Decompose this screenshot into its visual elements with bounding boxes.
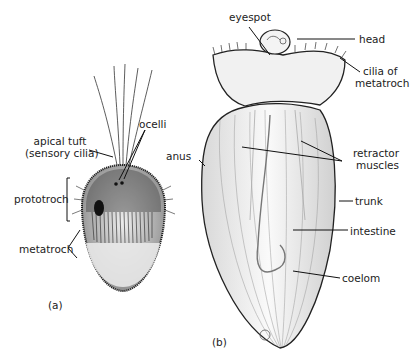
label-cilia-line1: cilia of bbox=[355, 65, 409, 77]
caption-b: (b) bbox=[212, 336, 227, 348]
label-head: head bbox=[359, 33, 385, 45]
caption-a: (a) bbox=[48, 299, 63, 311]
label-retractor-muscles: retractor muscles bbox=[353, 147, 399, 171]
label-eyespot: eyespot bbox=[229, 11, 271, 23]
label-anus: anus bbox=[166, 150, 191, 162]
label-retractor-line1: retractor bbox=[353, 147, 399, 159]
diagram-canvas: apical tuft (sensory cilia) ocelli proto… bbox=[0, 0, 414, 364]
label-prototroch: prototroch bbox=[14, 193, 69, 205]
label-retractor-line2: muscles bbox=[353, 159, 399, 171]
label-apical-tuft-line1: apical tuft bbox=[25, 135, 95, 147]
label-apical-tuft-line2: (sensory cilia) bbox=[25, 147, 95, 159]
adult-organism bbox=[202, 30, 346, 348]
label-cilia-of-metatroch: cilia of metatroch bbox=[355, 65, 409, 89]
trochophore-larva bbox=[72, 64, 175, 291]
apical-tuft-cilia bbox=[94, 64, 152, 165]
label-trunk: trunk bbox=[355, 195, 383, 207]
label-apical-tuft: apical tuft (sensory cilia) bbox=[25, 135, 95, 159]
label-coelom: coelom bbox=[342, 272, 380, 284]
label-intestine: intestine bbox=[350, 225, 396, 237]
label-ocelli: ocelli bbox=[139, 118, 166, 130]
label-cilia-line2: metatroch bbox=[355, 77, 409, 89]
label-metatroch: metatroch bbox=[19, 243, 73, 255]
